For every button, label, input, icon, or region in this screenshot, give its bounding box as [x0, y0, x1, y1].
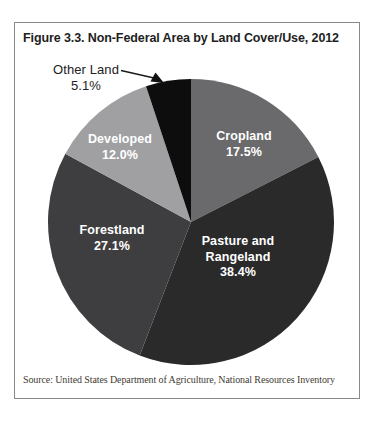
- figure-canvas: Figure 3.3. Non-Federal Area by Land Cov…: [0, 0, 372, 427]
- slice-percent: 17.5%: [184, 145, 304, 161]
- slice-label-developed: Developed 12.0%: [60, 132, 180, 163]
- slice-name: Other Land: [26, 62, 146, 78]
- slice-percent: 27.1%: [52, 239, 172, 255]
- slice-name: Pasture and Rangeland: [178, 234, 298, 265]
- slice-label-pasture-and-rangeland: Pasture and Rangeland 38.4%: [178, 234, 298, 281]
- slice-percent: 5.1%: [26, 78, 146, 94]
- slice-label-forestland: Forestland 27.1%: [52, 223, 172, 254]
- slice-percent: 12.0%: [60, 148, 180, 164]
- slice-name: Forestland: [52, 223, 172, 239]
- slice-name: Developed: [60, 132, 180, 148]
- slice-percent: 38.4%: [178, 265, 298, 281]
- source-note: Source: United States Department of Agri…: [23, 374, 355, 386]
- figure-panel: Figure 3.3. Non-Federal Area by Land Cov…: [14, 22, 360, 399]
- pie-chart-area: Cropland 17.5% Pasture and Rangeland 38.…: [15, 23, 359, 398]
- pie-slices-group: [48, 79, 334, 365]
- slice-label-other-land: Other Land 5.1%: [26, 62, 146, 94]
- slice-name: Cropland: [184, 129, 304, 145]
- slice-label-cropland: Cropland 17.5%: [184, 129, 304, 160]
